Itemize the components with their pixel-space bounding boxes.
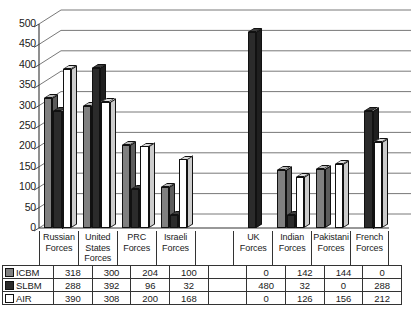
bar-icbm (83, 106, 91, 228)
bar-slbm (248, 32, 256, 228)
table-cell: 318 (54, 266, 93, 279)
table-cell: 300 (92, 266, 131, 279)
table-cell: 32 (169, 279, 208, 292)
table-cell: 204 (131, 266, 170, 279)
category-text: PakistaniForces (313, 232, 349, 253)
table-row: ICBM31830020410001421440 (3, 266, 402, 279)
table-cell: 390 (54, 292, 93, 305)
legend-item-icbm: ICBM (3, 266, 54, 279)
table-cell: 288 (54, 279, 93, 292)
bar-slbm (170, 215, 178, 228)
category-label-united-states-forces: UnitedStatesForces (78, 231, 117, 265)
table-cell: 0 (247, 266, 286, 279)
table-cell: 100 (169, 266, 208, 279)
table-cell: 144 (324, 266, 363, 279)
bar-air (335, 164, 343, 228)
category-label-israeli-forces: IsraeliForces (156, 231, 195, 265)
category-spacer (195, 231, 234, 265)
bar-air (296, 177, 304, 228)
table-cell: 0 (324, 279, 363, 292)
category-text: UKForces (240, 232, 267, 253)
table-row: AIR3903082001680126156212 (3, 292, 402, 305)
legend-item-air: AIR (3, 292, 54, 305)
category-label-pakistani-forces: PakistaniForces (311, 231, 350, 265)
category-text: PRCForces (123, 232, 150, 253)
bar-slbm (53, 111, 61, 229)
table-cell-empty (208, 266, 247, 279)
category-text: IsraeliForces (162, 232, 189, 253)
table-cell: 392 (92, 279, 131, 292)
table-cell: 0 (247, 292, 286, 305)
table-cell: 288 (363, 279, 402, 292)
bar-chart: 050100150200250300350400450500 RussianFo… (0, 0, 412, 323)
bar-series-layer (0, 0, 412, 232)
table-cell: 168 (169, 292, 208, 305)
category-text (213, 232, 215, 243)
legend-item-slbm: SLBM (3, 279, 54, 292)
data-table: ICBM31830020410001421440SLBM288392963248… (2, 265, 402, 305)
bar-air (63, 69, 71, 228)
table-cell: 200 (131, 292, 170, 305)
bar-air (179, 159, 187, 228)
category-label-indian-forces: IndianForces (272, 231, 311, 265)
legend-label: AIR (16, 293, 32, 304)
category-text: FrenchForces (356, 232, 383, 253)
category-text: UnitedStatesForces (84, 232, 111, 264)
plot-area: 050100150200250300350400450500 (0, 0, 412, 232)
bar-air (101, 102, 109, 228)
bar-air (140, 146, 148, 228)
bar-icbm (277, 170, 285, 228)
table-cell: 96 (131, 279, 170, 292)
category-axis: RussianForcesUnitedStatesForcesPRCForces… (39, 231, 389, 265)
table-cell: 156 (324, 292, 363, 305)
category-text: IndianForces (279, 232, 306, 253)
bar-slbm (287, 215, 295, 228)
table-cell: 0 (363, 266, 402, 279)
legend-label: ICBM (16, 267, 39, 278)
table-cell: 212 (363, 292, 402, 305)
bar-icbm (161, 187, 169, 228)
bar-icbm (44, 98, 52, 228)
category-label-french-forces: FrenchForces (350, 231, 389, 265)
table-cell: 480 (247, 279, 286, 292)
category-text: RussianForces (43, 232, 75, 253)
bar-slbm (364, 111, 372, 229)
table-cell: 142 (285, 266, 324, 279)
table-cell-empty (208, 292, 247, 305)
bar-icbm (316, 169, 324, 228)
category-label-uk-forces: UKForces (233, 231, 272, 265)
table-cell: 308 (92, 292, 131, 305)
table-cell-empty (208, 279, 247, 292)
table-cell: 32 (285, 279, 324, 292)
category-label-russian-forces: RussianForces (39, 231, 78, 265)
legend-label: SLBM (16, 280, 41, 291)
legend-swatch-air-icon (5, 294, 14, 303)
bar-slbm (131, 189, 139, 228)
bar-air (374, 142, 382, 228)
legend-swatch-slbm-icon (5, 281, 14, 290)
legend-swatch-icbm-icon (5, 268, 14, 277)
table-cell: 126 (285, 292, 324, 305)
table-row: SLBM2883929632480320288 (3, 279, 402, 292)
category-label-prc-forces: PRCForces (117, 231, 156, 265)
bar-slbm (92, 68, 100, 228)
bar-icbm (122, 145, 130, 228)
